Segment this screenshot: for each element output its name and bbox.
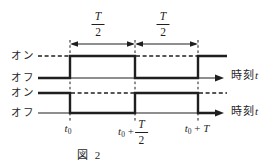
plus-sign: + — [194, 122, 200, 134]
tick-label-t0-plus-T-half: t0 + T 2 — [118, 119, 148, 146]
dim-arrowhead-right-2 — [190, 41, 198, 47]
fraction-numerator: T — [138, 119, 144, 131]
plus-sign: + — [128, 125, 134, 137]
top-time-axis-label: 時刻t — [231, 69, 259, 81]
fraction-numerator: T — [160, 11, 166, 23]
interval-label-first-half: T 2 — [92, 6, 105, 38]
fraction-T-over-2: T 2 — [135, 119, 148, 146]
fraction-denominator: 2 — [160, 27, 166, 39]
bottom-time-axis-arrowhead — [215, 110, 224, 117]
fraction-numerator: T — [95, 11, 101, 23]
top-off-label: オフ — [11, 72, 34, 84]
time-kanji: 時刻 — [231, 105, 255, 117]
time-variable: t — [255, 105, 259, 117]
fraction-bar — [92, 24, 105, 25]
dim-arrowhead-left-2 — [135, 41, 143, 47]
fraction-T-over-2: T 2 — [157, 11, 170, 38]
top-square-wave — [38, 56, 227, 78]
figure-caption: 図 2 — [77, 149, 102, 161]
tick-label-t0: t0 — [65, 122, 72, 136]
bottom-time-axis-label: 時刻t — [231, 105, 259, 117]
top-time-axis-arrowhead — [215, 75, 224, 82]
dim-arrowhead-left-1 — [70, 41, 78, 47]
tick-subscript: 0 — [188, 127, 192, 136]
time-kanji: 時刻 — [231, 69, 255, 81]
tick-subscript: 0 — [121, 130, 125, 139]
bottom-square-wave — [38, 93, 216, 113]
fraction-denominator: 2 — [139, 135, 145, 147]
fraction-denominator: 2 — [95, 27, 101, 39]
interval-label-second-half: T 2 — [157, 6, 170, 38]
bottom-on-label: オン — [11, 87, 34, 99]
tick-variable-T: T — [203, 122, 209, 134]
fraction-bar — [157, 24, 170, 25]
top-on-label: オン — [11, 50, 34, 62]
bottom-off-label: オフ — [11, 107, 34, 119]
fraction-T-over-2: T 2 — [92, 11, 105, 38]
tick-subscript: 0 — [68, 127, 72, 136]
fraction-bar — [135, 132, 148, 133]
figure-2-timing-diagram: T 2 T 2 オン オフ オン オフ 時刻t 時刻t t0 t0 + T 2 … — [0, 0, 276, 165]
tick-label-t0-plus-T: t0 + T — [185, 122, 210, 136]
time-variable: t — [255, 69, 259, 81]
dim-arrowhead-right-1 — [127, 41, 135, 47]
